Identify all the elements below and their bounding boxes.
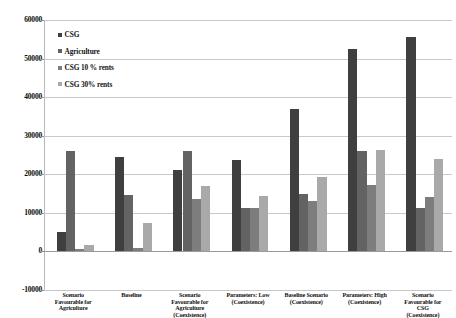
bar-csg — [115, 157, 124, 252]
bar-csg-30-rents — [317, 177, 326, 251]
y-axis-tick-label: 30000 — [6, 132, 42, 140]
bar-csg — [348, 49, 357, 252]
x-axis-category-label: ScenarioFavourable forAgriculture(Coexis… — [161, 292, 219, 318]
x-axis-category-label: Parameters: High(Coexistence) — [335, 292, 393, 305]
bar-group — [335, 20, 393, 290]
x-axis-label-line: Agriculture — [161, 305, 219, 312]
legend-item-label: CSG 30% rents — [65, 80, 113, 89]
x-axis-label-line: Baseline Scenario — [277, 292, 335, 299]
bar-csg-10-rents — [75, 249, 84, 252]
bar-agriculture — [124, 195, 133, 252]
x-axis-category-label: ScenarioFavourable forCSG(Coexistence) — [394, 292, 452, 318]
legend-swatch-icon — [58, 33, 62, 37]
x-axis-category-label: Baseline — [102, 292, 160, 299]
bar-csg — [173, 170, 182, 251]
x-axis-label-line: Parameters: High — [335, 292, 393, 299]
bar-csg-10-rents — [133, 248, 142, 251]
axis-bottom-rule — [44, 290, 452, 291]
x-axis-label-line: Favourable for — [44, 299, 102, 306]
bar-csg — [290, 109, 299, 252]
bar-csg — [406, 37, 415, 251]
y-axis-tick-label: 10000 — [6, 209, 42, 217]
x-axis-label-line: (Coexistence) — [161, 312, 219, 318]
legend-item-label: Agriculture — [65, 47, 100, 56]
legend-item[interactable]: CSG 30% rents — [58, 78, 178, 91]
bar-csg-10-rents — [425, 197, 434, 251]
x-axis-label-line: Favourable for — [394, 299, 452, 306]
chart-legend: CSGAgricultureCSG 10 % rentsCSG 30% rent… — [58, 28, 178, 94]
bar-csg-30-rents — [376, 150, 385, 251]
x-axis-label-line: Scenario — [44, 292, 102, 299]
y-axis-tick-label: 60000 — [6, 16, 42, 24]
bar-csg — [57, 232, 66, 251]
legend-item[interactable]: Agriculture — [58, 45, 178, 58]
x-axis-category-label: Parameters: Low(Coexistence) — [219, 292, 277, 305]
x-axis-category-label: ScenarioFavourable forAgriculture — [44, 292, 102, 312]
x-axis-label-line: Agriculture — [44, 305, 102, 312]
bar-group — [219, 20, 277, 290]
bar-agriculture — [416, 208, 425, 251]
legend-swatch-icon — [58, 82, 62, 86]
bar-csg-10-rents — [192, 199, 201, 252]
bar-agriculture — [66, 151, 75, 251]
bar-csg — [232, 160, 241, 251]
bar-csg-30-rents — [434, 159, 443, 251]
y-axis-tick-label: -10000 — [6, 286, 42, 294]
y-axis-tick-label: 50000 — [6, 55, 42, 63]
bar-agriculture — [357, 151, 366, 251]
bar-agriculture — [241, 208, 250, 252]
bar-group — [277, 20, 335, 290]
legend-item-label: CSG 10 % rents — [65, 63, 114, 72]
x-axis-label-line: (Coexistence) — [277, 299, 335, 306]
legend-item-label: CSG — [65, 30, 80, 39]
y-axis: 6000050000400003000020000100000-10000 — [0, 0, 42, 316]
bar-csg-10-rents — [308, 201, 317, 251]
bar-csg-10-rents — [250, 208, 259, 252]
bar-csg-30-rents — [259, 196, 268, 252]
legend-swatch-icon — [58, 66, 62, 70]
bar-agriculture — [299, 194, 308, 251]
x-axis-label-line: (Coexistence) — [335, 299, 393, 306]
x-axis-label-line: Baseline — [102, 292, 160, 299]
bar-csg-30-rents — [84, 245, 93, 251]
x-axis-label-line: Scenario — [161, 292, 219, 299]
x-axis-label-line: (Coexistence) — [219, 299, 277, 306]
bar-agriculture — [183, 151, 192, 251]
bar-csg-10-rents — [367, 185, 376, 252]
y-axis-tick-label: 40000 — [6, 93, 42, 101]
y-axis-tick-label: 20000 — [6, 170, 42, 178]
x-axis-label-line: Scenario — [394, 292, 452, 299]
x-axis-label-line: (Coexistence) — [394, 312, 452, 318]
x-axis-label-line: CSG — [394, 305, 452, 312]
x-axis-category-label: Baseline Scenario(Coexistence) — [277, 292, 335, 305]
legend-swatch-icon — [58, 49, 62, 53]
bar-group — [394, 20, 452, 290]
bar-csg-30-rents — [201, 186, 210, 252]
bar-csg-30-rents — [143, 223, 152, 251]
legend-item[interactable]: CSG — [58, 28, 178, 41]
x-axis-label-line: Parameters: Low — [219, 292, 277, 299]
y-axis-tick-label: 0 — [6, 247, 42, 255]
x-axis-label-line: Favourable for — [161, 299, 219, 306]
x-axis-labels: ScenarioFavourable forAgricultureBaselin… — [44, 292, 452, 316]
legend-item[interactable]: CSG 10 % rents — [58, 61, 178, 74]
